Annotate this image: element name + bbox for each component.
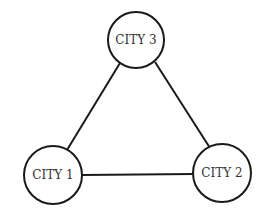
city-graph-diagram: CITY 3 CITY 1 CITY 2 [0, 0, 265, 213]
node-city3-label: CITY 3 [115, 33, 156, 47]
node-city2-label: CITY 2 [201, 166, 242, 180]
edge-city1-city2 [82, 174, 194, 175]
node-city1-label: CITY 1 [32, 168, 73, 182]
node-city1: CITY 1 [24, 146, 82, 204]
edge-city1-city3 [67, 63, 120, 150]
node-city2: CITY 2 [193, 144, 251, 202]
node-city3: CITY 3 [108, 12, 164, 68]
edge-city3-city2 [155, 62, 210, 148]
